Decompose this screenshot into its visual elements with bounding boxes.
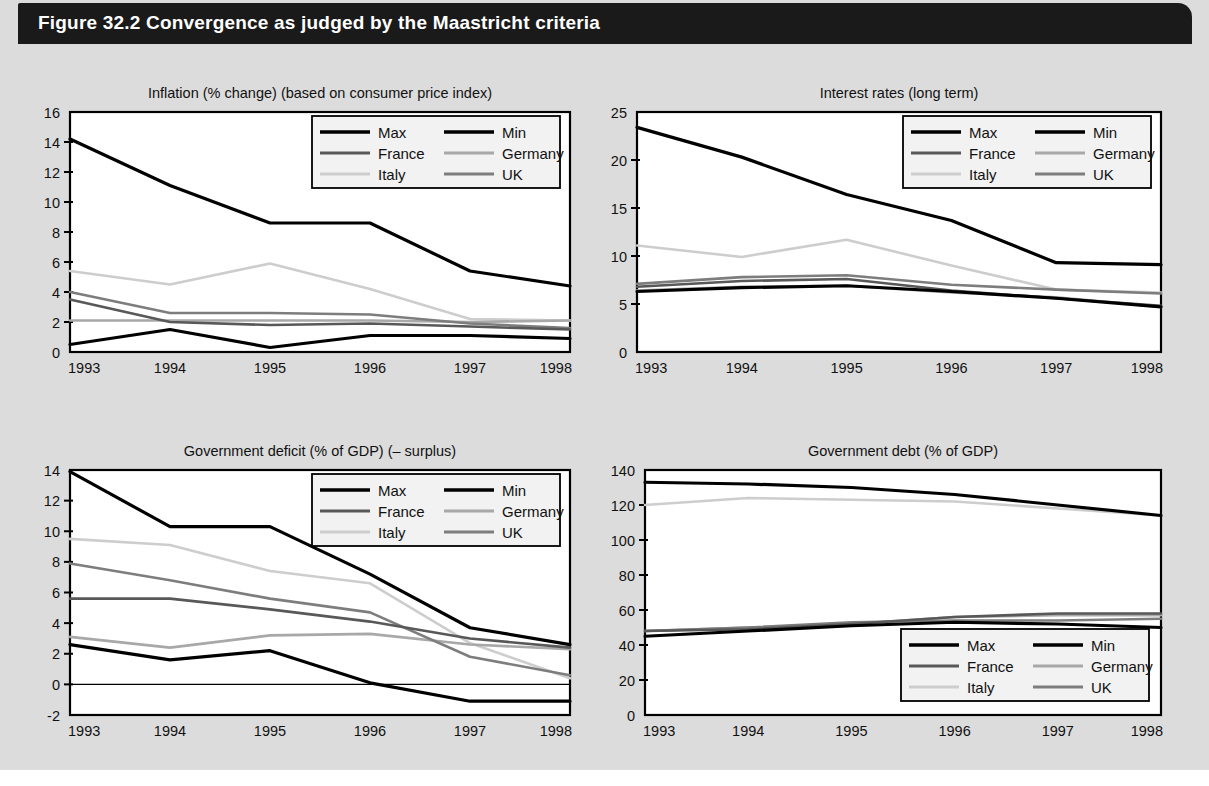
chart-title: Government deficit (% of GDP) (– surplus… [184, 443, 456, 459]
legend-label-germany: Germany [502, 145, 564, 162]
y-axis-tick-label: 120 [611, 498, 635, 514]
chart-panel-interest-rates: Interest rates (long term)05101520251993… [600, 72, 1200, 382]
x-axis-tick-label: 1996 [935, 360, 967, 376]
y-axis-tick-label: 14 [44, 135, 60, 151]
legend-label-min: Min [502, 482, 526, 499]
legend-label-min: Min [1093, 124, 1117, 141]
y-axis-tick-label: 20 [611, 153, 627, 169]
legend-label-france: France [378, 145, 425, 162]
legend-label-uk: UK [502, 524, 523, 541]
y-axis-tick-label: 0 [627, 708, 635, 724]
series-line-germany [70, 321, 570, 323]
y-axis-tick-label: 2 [52, 646, 60, 662]
chart-panel-government-deficit: Government deficit (% of GDP) (– surplus… [18, 432, 596, 752]
y-axis-tick-label: 10 [44, 524, 60, 540]
x-axis-tick-label: 1995 [835, 723, 867, 739]
y-axis-tick-label: 8 [52, 554, 60, 570]
x-axis-tick-label: 1998 [1131, 723, 1163, 739]
x-axis-tick-label: 1997 [1040, 360, 1072, 376]
y-axis-tick-label: 6 [52, 255, 60, 271]
x-axis-tick-label: 1998 [540, 360, 572, 376]
x-axis-tick-label: 1994 [154, 360, 186, 376]
x-axis-tick-label: 1993 [68, 360, 100, 376]
y-axis-tick-label: 15 [611, 201, 627, 217]
y-axis-tick-label: 8 [52, 225, 60, 241]
legend-label-max: Max [378, 124, 407, 141]
chart-svg-interest-rates: Interest rates (long term)05101520251993… [600, 72, 1200, 382]
page-bottom-strip [0, 770, 1209, 786]
legend-label-italy: Italy [378, 166, 406, 183]
y-axis-tick-label: 10 [44, 195, 60, 211]
figure-container: Figure 32.2 Convergence as judged by the… [0, 0, 1209, 786]
legend-label-min: Min [502, 124, 526, 141]
chart-legend: MaxMinFranceGermanyItalyUK [312, 116, 564, 188]
y-axis-tick-label: 20 [619, 673, 635, 689]
chart-svg-government-debt: Government debt (% of GDP)02040608010012… [600, 432, 1200, 752]
x-axis-tick-label: 1993 [635, 360, 667, 376]
x-axis-tick-label: 1996 [354, 360, 386, 376]
x-axis-tick-label: 1994 [726, 360, 758, 376]
chart-svg-inflation: Inflation (% change) (based on consumer … [18, 72, 596, 382]
legend-label-min: Min [1091, 637, 1115, 654]
x-axis-tick-label: 1995 [830, 360, 862, 376]
chart-svg-government-deficit: Government deficit (% of GDP) (– surplus… [18, 432, 596, 752]
y-axis-tick-label: 12 [44, 493, 60, 509]
y-axis-tick-label: 6 [52, 585, 60, 601]
y-axis-tick-label: 16 [44, 105, 60, 121]
legend-label-germany: Germany [1093, 145, 1155, 162]
y-axis-tick-label: 5 [619, 297, 627, 313]
legend-label-germany: Germany [1091, 658, 1153, 675]
y-axis-tick-label: 0 [619, 345, 627, 361]
chart-title: Interest rates (long term) [820, 85, 979, 101]
legend-label-france: France [969, 145, 1016, 162]
y-axis-tick-label: 2 [52, 315, 60, 331]
x-axis-tick-label: 1993 [68, 723, 100, 739]
legend-label-uk: UK [1091, 679, 1112, 696]
legend-label-max: Max [378, 482, 407, 499]
y-axis-tick-label: 4 [52, 285, 60, 301]
legend-label-max: Max [969, 124, 998, 141]
x-axis-tick-label: 1996 [938, 723, 970, 739]
chart-title: Government debt (% of GDP) [808, 443, 998, 459]
x-axis-tick-label: 1994 [732, 723, 764, 739]
x-axis-tick-label: 1997 [454, 723, 486, 739]
legend-label-italy: Italy [967, 679, 995, 696]
x-axis-tick-label: 1997 [454, 360, 486, 376]
y-axis-tick-label: 25 [611, 105, 627, 121]
chart-title: Inflation (% change) (based on consumer … [148, 85, 492, 101]
y-axis-tick-label: 140 [611, 463, 635, 479]
y-axis-tick-label: 80 [619, 568, 635, 584]
y-axis-tick-label: 10 [611, 249, 627, 265]
y-axis-tick-label: 0 [52, 677, 60, 693]
chart-panel-inflation: Inflation (% change) (based on consumer … [18, 72, 596, 382]
figure-title-bar: Figure 32.2 Convergence as judged by the… [18, 3, 1192, 44]
legend-label-max: Max [967, 637, 996, 654]
y-axis-tick-label: 100 [611, 533, 635, 549]
y-axis-tick-label: 14 [44, 463, 60, 479]
legend-label-france: France [967, 658, 1014, 675]
legend-label-uk: UK [1093, 166, 1114, 183]
chart-legend: MaxMinFranceGermanyItalyUK [901, 629, 1153, 701]
chart-legend: MaxMinFranceGermanyItalyUK [312, 474, 564, 546]
legend-label-france: France [378, 503, 425, 520]
y-axis-tick-label: 60 [619, 603, 635, 619]
x-axis-tick-label: 1995 [254, 360, 286, 376]
y-axis-tick-label: 4 [52, 616, 60, 632]
legend-label-germany: Germany [502, 503, 564, 520]
x-axis-tick-label: 1998 [540, 723, 572, 739]
chart-legend: MaxMinFranceGermanyItalyUK [903, 116, 1155, 188]
x-axis-tick-label: 1994 [154, 723, 186, 739]
y-axis-tick-label: 40 [619, 638, 635, 654]
x-axis-tick-label: 1997 [1042, 723, 1074, 739]
y-axis-tick-label: 12 [44, 165, 60, 181]
chart-panel-government-debt: Government debt (% of GDP)02040608010012… [600, 432, 1200, 752]
x-axis-tick-label: 1993 [643, 723, 675, 739]
x-axis-tick-label: 1996 [354, 723, 386, 739]
x-axis-tick-label: 1998 [1131, 360, 1163, 376]
legend-label-italy: Italy [969, 166, 997, 183]
legend-label-uk: UK [502, 166, 523, 183]
y-axis-tick-label: -2 [47, 708, 60, 724]
figure-title: Figure 32.2 Convergence as judged by the… [38, 12, 600, 34]
x-axis-tick-label: 1995 [254, 723, 286, 739]
y-axis-tick-label: 0 [52, 345, 60, 361]
